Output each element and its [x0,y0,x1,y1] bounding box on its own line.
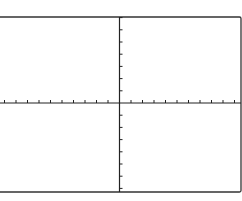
coordinate-plane [0,0,242,201]
graph-frame [0,17,241,192]
